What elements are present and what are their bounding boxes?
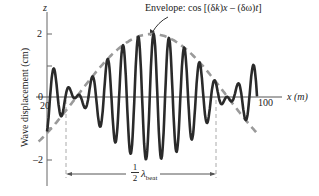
envelope-text-3: – (δω) bbox=[228, 2, 256, 13]
x-axis-var: x (m) bbox=[287, 91, 308, 102]
lambda-beat-label: λbeat bbox=[141, 168, 157, 182]
envelope-text-4: ] bbox=[258, 2, 261, 13]
beat-subscript: beat bbox=[146, 174, 158, 182]
z-axis-label: z bbox=[43, 3, 47, 13]
envelope-pointer-arrow bbox=[152, 17, 168, 33]
fraction-numerator: 1 bbox=[131, 162, 139, 173]
y-tick-label-neg2: –2 bbox=[33, 155, 43, 165]
x-tick-label-100: 100 bbox=[258, 98, 273, 108]
arrowhead-right-icon bbox=[210, 172, 216, 176]
arrowhead-left-icon bbox=[66, 172, 72, 176]
y-axis-label: Wave displacement (cm) bbox=[19, 28, 30, 168]
envelope-annotation: Envelope: cos [(δk)x – (δω)t] bbox=[145, 3, 262, 13]
y-tick-label-2: 2 bbox=[37, 29, 42, 39]
envelope-text-1: Envelope: cos [(δ bbox=[145, 2, 215, 13]
x-tick-label-20: 20 bbox=[40, 101, 50, 111]
fraction-denominator: 2 bbox=[131, 173, 139, 183]
x-axis-label: x (m) bbox=[287, 92, 308, 102]
half-fraction: 1 2 bbox=[131, 162, 139, 183]
